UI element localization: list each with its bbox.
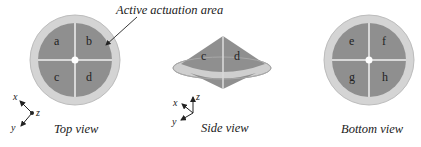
svg-text:z: z	[195, 91, 200, 102]
bottom-view-disc: e f g h	[324, 15, 414, 105]
quadrant-f-label: f	[382, 34, 386, 48]
top-view-axes-icon: x y z	[10, 91, 40, 133]
svg-text:x: x	[12, 91, 18, 102]
quadrant-e-label: e	[349, 34, 354, 48]
segment-c-label: c	[201, 49, 206, 63]
active-area-annotation: Active actuation area	[115, 3, 223, 17]
actuator-diagram: a b c d Active actuation area x y z Top …	[0, 0, 421, 147]
quadrant-h-label: h	[382, 70, 388, 84]
svg-text:x: x	[172, 97, 178, 108]
top-view-caption: Top view	[54, 122, 99, 136]
bottom-view-caption: Bottom view	[341, 122, 404, 136]
segment-d-label: d	[234, 49, 240, 63]
diagram-canvas: a b c d Active actuation area x y z Top …	[0, 0, 421, 147]
quadrant-a-label: a	[54, 34, 60, 48]
annotation-arrow	[106, 17, 137, 45]
side-view-caption: Side view	[201, 121, 249, 135]
side-view-axes-icon: x z y	[171, 91, 200, 127]
quadrant-g-label: g	[349, 70, 355, 84]
top-view-disc: a b c d	[30, 15, 120, 105]
side-view-cone: c d	[173, 36, 271, 89]
quadrant-d-label: d	[86, 70, 92, 84]
svg-text:y: y	[10, 122, 16, 133]
quadrant-c-label: c	[54, 70, 59, 84]
quadrant-b-label: b	[86, 34, 92, 48]
svg-text:y: y	[171, 116, 177, 127]
svg-text:z: z	[35, 107, 40, 118]
